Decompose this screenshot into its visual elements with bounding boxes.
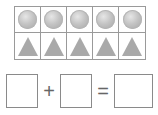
triangle-icon: [18, 37, 38, 56]
cell: [93, 33, 119, 59]
cell: [15, 7, 41, 33]
cell: [119, 7, 145, 33]
cell: [67, 33, 93, 59]
triangle-icon: [122, 37, 142, 56]
circle-icon: [44, 10, 63, 29]
answer-box-1[interactable]: [6, 74, 38, 108]
cell: [67, 7, 93, 33]
equals-sign: =: [94, 81, 112, 101]
triangle-icon: [70, 37, 90, 56]
ten-frame-grid: [14, 6, 146, 60]
circle-icon: [70, 10, 89, 29]
cell: [41, 7, 67, 33]
answer-box-3[interactable]: [114, 74, 153, 108]
cell: [93, 7, 119, 33]
cell: [41, 33, 67, 59]
circle-icon: [123, 10, 142, 29]
cell: [119, 33, 145, 59]
triangle-icon: [44, 37, 64, 56]
plus-sign: +: [40, 81, 58, 101]
circle-icon: [96, 10, 115, 29]
circle-icon: [18, 10, 37, 29]
cell: [15, 33, 41, 59]
answer-box-2[interactable]: [60, 74, 92, 108]
triangle-icon: [96, 37, 116, 56]
